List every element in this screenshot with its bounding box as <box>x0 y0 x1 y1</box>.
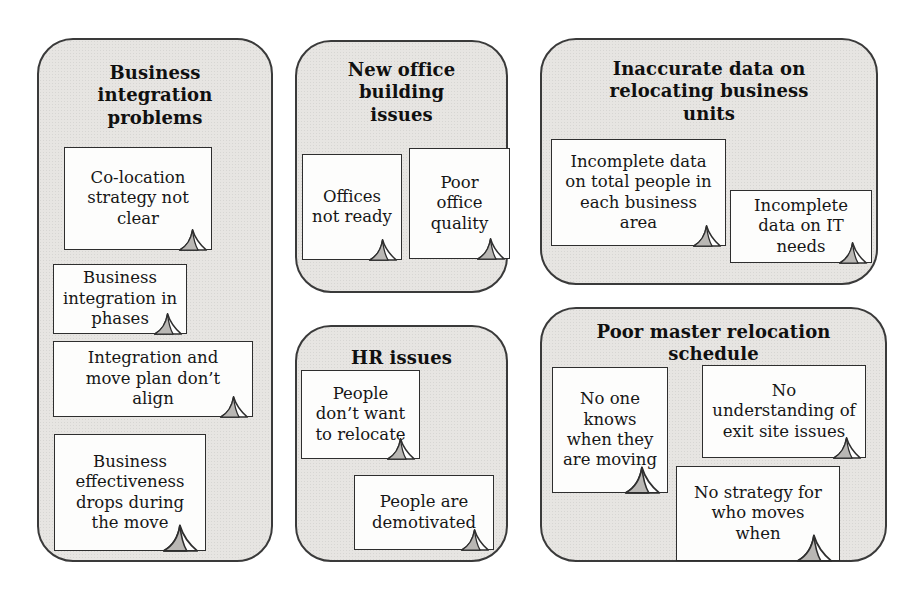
folded-corner-icon <box>692 223 722 247</box>
folded-corner-icon <box>460 527 490 551</box>
group-title: HR issues <box>297 347 506 369</box>
group-poor-master-relocation-schedule: Poor master relocation schedule No one k… <box>540 307 887 562</box>
group-business-integration-problems: Business integration problems Co-locatio… <box>37 38 273 562</box>
sticky-note: Co-location strategy not clear <box>64 147 212 250</box>
folded-corner-icon <box>476 236 506 260</box>
sticky-note: Incomplete data on IT needs <box>730 190 872 263</box>
sticky-note: Business effectiveness drops during the … <box>54 434 206 551</box>
note-text: Incomplete data on total people in each … <box>565 152 711 234</box>
folded-corner-icon <box>178 227 208 251</box>
sticky-note: No understanding of exit site issues <box>702 365 866 458</box>
note-text: No one knows when they are moving <box>563 389 657 471</box>
group-title: New office building issues <box>297 59 506 126</box>
group-title: Poor master relocation schedule <box>542 321 885 366</box>
sticky-note: Incomplete data on total people in each … <box>551 139 726 246</box>
folded-corner-icon <box>386 436 416 460</box>
note-text: Poor office quality <box>431 173 489 234</box>
folded-corner-icon <box>153 311 183 335</box>
note-text: Integration and move plan don’t align <box>86 348 220 409</box>
group-title: Inaccurate data on relocating business u… <box>542 58 876 125</box>
sticky-note: Business integration in phases <box>53 264 187 334</box>
folded-corner-icon <box>832 435 862 459</box>
folded-corner-icon <box>838 240 868 264</box>
sticky-note: Integration and move plan don’t align <box>53 341 253 417</box>
sticky-note: No one knows when they are moving <box>552 367 668 493</box>
group-title: Business integration problems <box>39 62 271 129</box>
folded-corner-icon <box>368 237 398 261</box>
folded-corner-icon <box>161 522 200 552</box>
note-text: No understanding of exit site issues <box>712 381 855 442</box>
note-text: Offices not ready <box>312 187 392 228</box>
group-hr-issues: HR issues People don’t want to relocate … <box>295 325 508 562</box>
note-text: Co-location strategy not clear <box>87 168 189 229</box>
folded-corner-icon <box>219 394 249 418</box>
sticky-note: People don’t want to relocate <box>301 370 420 459</box>
sticky-note: Offices not ready <box>302 154 402 260</box>
folded-corner-icon <box>623 464 662 494</box>
sticky-note: Poor office quality <box>409 148 510 259</box>
affinity-diagram: Business integration problems Co-locatio… <box>0 0 909 598</box>
group-inaccurate-data: Inaccurate data on relocating business u… <box>540 38 878 285</box>
folded-corner-icon <box>795 532 834 562</box>
note-text: Incomplete data on IT needs <box>754 196 848 257</box>
sticky-note: People are demotivated <box>354 475 494 550</box>
sticky-note: No strategy for who moves when <box>676 466 840 561</box>
group-new-office-building-issues: New office building issues Offices not r… <box>295 40 508 293</box>
